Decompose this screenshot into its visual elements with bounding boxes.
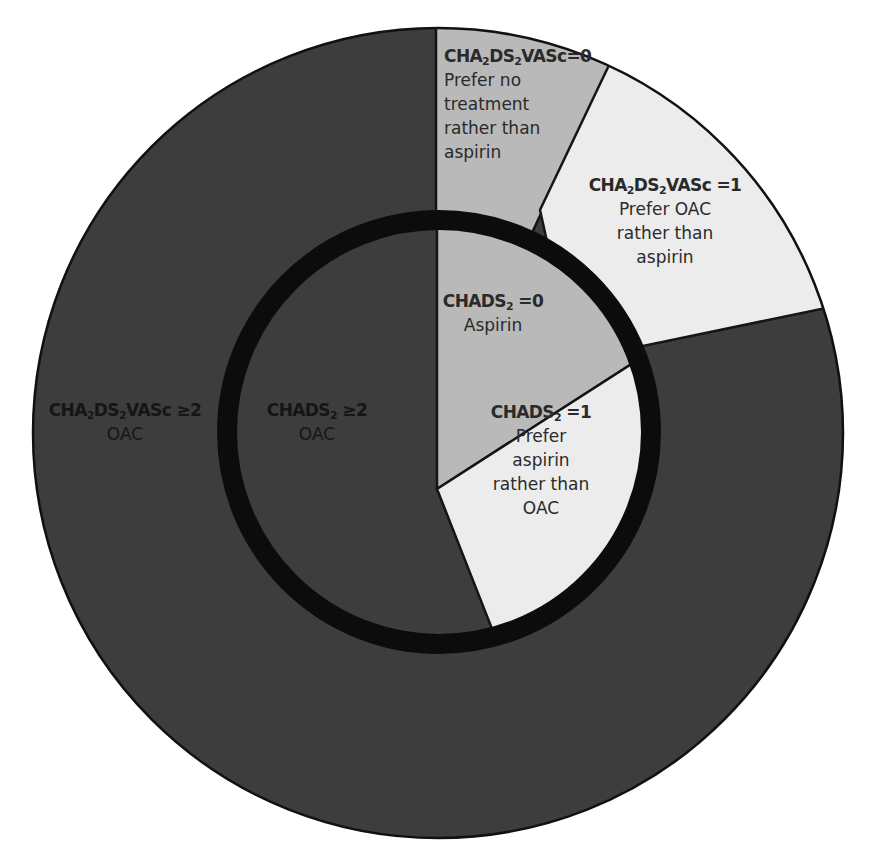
label-heading: CHA2DS2VASc ≥2 (35, 398, 215, 422)
label-heading: CHA2DS2VASc =1 (575, 173, 755, 197)
label-line: aspirin (444, 140, 591, 164)
label-line: OAC (476, 496, 606, 520)
label-line: aspirin (575, 245, 755, 269)
label-cha2ds2vasc-0: CHA2DS2VASc=0 Prefer no treatment rather… (444, 44, 591, 164)
label-chads2-0: CHADS2 =0 Aspirin (438, 289, 548, 337)
label-heading: CHADS2 =0 (438, 289, 548, 313)
label-line: rather than (575, 221, 755, 245)
label-chads2-1: CHADS2 =1 Prefer aspirin rather than OAC (476, 400, 606, 520)
label-heading: CHA2DS2VASc=0 (444, 44, 591, 68)
label-line: Prefer OAC (575, 197, 755, 221)
label-line: rather than (444, 116, 591, 140)
label-heading: CHADS2 =1 (476, 400, 606, 424)
label-cha2ds2vasc-1: CHA2DS2VASc =1 Prefer OAC rather than as… (575, 173, 755, 269)
label-line: rather than (476, 472, 606, 496)
label-line: aspirin (476, 448, 606, 472)
label-line: OAC (35, 422, 215, 446)
label-line: Prefer (476, 424, 606, 448)
label-cha2ds2vasc-ge2: CHA2DS2VASc ≥2 OAC (35, 398, 215, 446)
label-line: Prefer no (444, 68, 591, 92)
label-line: OAC (262, 422, 372, 446)
label-line: treatment (444, 92, 591, 116)
label-chads2-ge2: CHADS2 ≥2 OAC (262, 398, 372, 446)
label-heading: CHADS2 ≥2 (262, 398, 372, 422)
label-line: Aspirin (438, 313, 548, 337)
